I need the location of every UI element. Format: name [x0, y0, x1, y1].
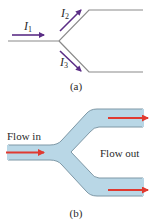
wire-junction-diagram: I1 I2 I3 (a): [8, 6, 143, 93]
flow-out-label: Flow out: [100, 147, 139, 159]
junction-figure: I1 I2 I3 (a) Flow in Flow out (b): [0, 0, 157, 224]
label-i1: I1: [23, 19, 32, 34]
pipe-flow-diagram: Flow in Flow out (b): [6, 109, 148, 220]
caption-a: (a): [70, 80, 83, 93]
label-i2: I2: [60, 6, 69, 21]
caption-b: (b): [70, 207, 83, 220]
flow-in-label: Flow in: [7, 130, 41, 142]
wire-lines-lower: [59, 41, 143, 72]
